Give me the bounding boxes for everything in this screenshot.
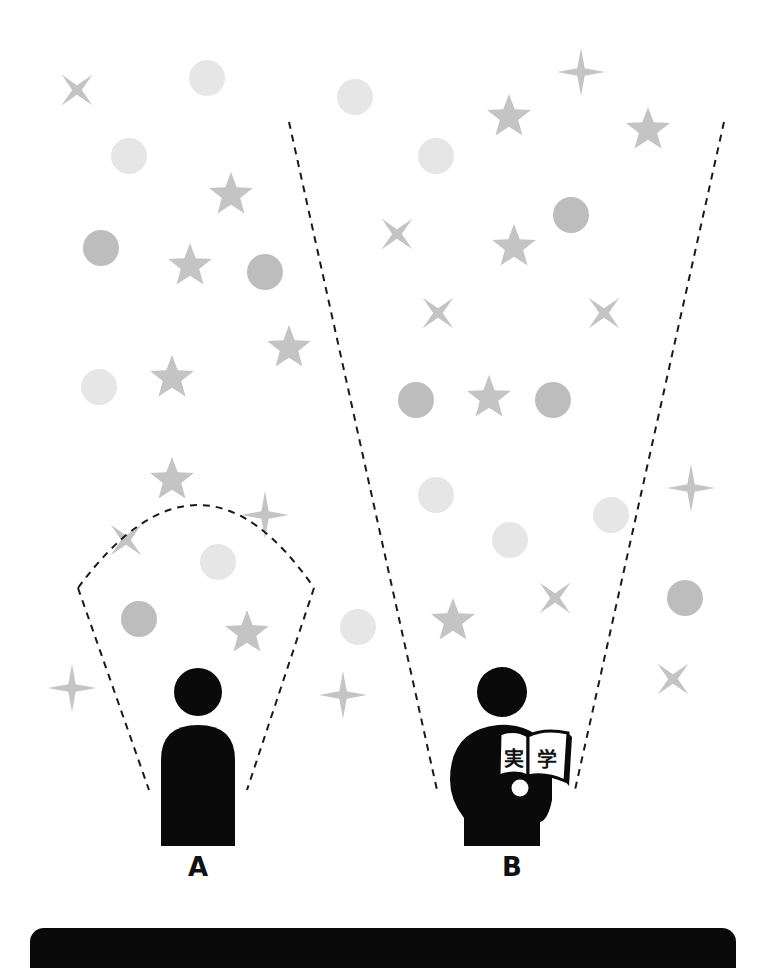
- star-icon: [150, 355, 194, 397]
- view-arc-a: [78, 505, 314, 588]
- dark-circle-icon: [667, 580, 703, 616]
- star-icon: [431, 598, 475, 640]
- dark-circle-icon: [121, 601, 157, 637]
- star-icon: [225, 610, 269, 652]
- x-star-icon: [111, 525, 142, 556]
- dark-circle-icon: [535, 382, 571, 418]
- view-line-b-right: [575, 122, 724, 790]
- book-char-right: 学: [537, 748, 557, 772]
- star-icon: [492, 224, 536, 266]
- person-a-figure: [161, 668, 235, 846]
- star-icon: [168, 243, 212, 285]
- hand: [510, 778, 530, 798]
- book-char-left: 実: [504, 747, 524, 771]
- star-icon: [150, 457, 194, 499]
- x-star-icon: [589, 298, 620, 329]
- light-circle-icon: [189, 60, 225, 96]
- x-star-icon: [62, 75, 93, 106]
- x-star-icon: [658, 664, 689, 695]
- dark-circle-icon: [553, 197, 589, 233]
- sparkle-icon: [319, 671, 367, 719]
- person-b-label: B: [502, 852, 522, 882]
- light-circle-icon: [111, 138, 147, 174]
- star-icon: [487, 94, 531, 136]
- scattered-shapes: [48, 48, 715, 719]
- light-circle-icon: [81, 369, 117, 405]
- light-circle-icon: [200, 544, 236, 580]
- light-circle-icon: [593, 497, 629, 533]
- dark-circle-icon: [398, 382, 434, 418]
- sparkle-icon: [667, 464, 715, 512]
- view-line-b-left: [289, 122, 437, 790]
- person-b-head: [477, 667, 527, 717]
- light-circle-icon: [337, 79, 373, 115]
- light-circle-icon: [340, 609, 376, 645]
- star-icon: [626, 107, 670, 149]
- light-circle-icon: [418, 477, 454, 513]
- sparkle-icon: [557, 48, 605, 96]
- dark-circle-icon: [83, 230, 119, 266]
- light-circle-icon: [492, 522, 528, 558]
- x-star-icon: [540, 583, 571, 614]
- person-a-body: [161, 725, 235, 846]
- star-icon: [467, 375, 511, 417]
- light-circle-icon: [418, 138, 454, 174]
- person-b-figure: 実 学: [450, 667, 572, 846]
- star-icon: [209, 172, 253, 214]
- view-line-a-right: [247, 588, 314, 790]
- star-icon: [267, 325, 311, 367]
- person-a-label: A: [188, 852, 208, 882]
- person-a-head: [174, 668, 222, 716]
- dark-circle-icon: [247, 254, 283, 290]
- x-star-icon: [423, 298, 454, 329]
- sparkle-icon: [48, 664, 96, 712]
- x-star-icon: [382, 219, 413, 250]
- bottom-caption-bar: [30, 928, 736, 968]
